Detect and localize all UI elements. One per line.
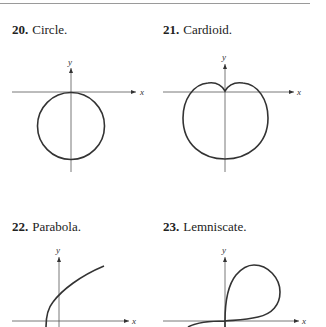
x-axis-label: x bbox=[301, 316, 306, 326]
y-axis-label: y bbox=[221, 52, 226, 62]
lemniscate-figure: x y bbox=[163, 245, 306, 327]
x-axis-label: x bbox=[139, 87, 144, 97]
y-axis-label: y bbox=[221, 245, 226, 255]
lemniscate-curve bbox=[188, 265, 280, 327]
parabola-figure: x y bbox=[12, 245, 136, 327]
circle-figure: x y bbox=[12, 57, 144, 172]
figures-canvas: x y x y x y x y bbox=[0, 0, 326, 327]
x-axis-label: x bbox=[131, 316, 136, 326]
x-axis-label: x bbox=[296, 87, 301, 97]
cardioid-curve bbox=[183, 83, 268, 159]
cardioid-figure: x y bbox=[163, 52, 301, 172]
y-axis-label: y bbox=[55, 245, 60, 255]
y-axis-label: y bbox=[67, 57, 72, 67]
parabola-curve bbox=[46, 266, 104, 327]
